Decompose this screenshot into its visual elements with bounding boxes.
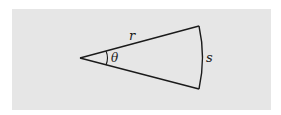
radius-label: r bbox=[129, 29, 135, 42]
radius-bottom-line bbox=[80, 58, 199, 89]
radius-top-line bbox=[80, 26, 199, 58]
angle-arc bbox=[106, 51, 108, 65]
sector-diagram bbox=[0, 0, 281, 115]
arc-label: s bbox=[206, 51, 213, 64]
angle-label: θ bbox=[111, 52, 118, 64]
arc-s bbox=[199, 26, 203, 89]
